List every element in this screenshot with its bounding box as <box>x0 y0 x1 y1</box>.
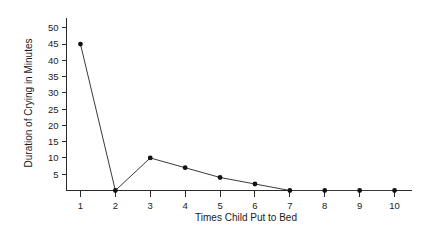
x-tick-label: 1 <box>78 200 83 211</box>
data-point <box>218 175 223 180</box>
data-point <box>322 188 327 193</box>
y-tick-label: 10 <box>48 152 59 163</box>
y-tick-label: 45 <box>48 38 59 49</box>
data-point <box>183 165 188 170</box>
chart-figure: 5101520253035404550 12345678910 Duration… <box>0 0 430 235</box>
y-tick-label: 30 <box>48 87 59 98</box>
x-tick-label: 9 <box>357 200 362 211</box>
data-point <box>78 42 83 47</box>
y-tick-label: 20 <box>48 120 59 131</box>
x-tick-label: 4 <box>183 200 188 211</box>
data-point <box>113 188 118 193</box>
x-tick-label: 2 <box>113 200 118 211</box>
x-tick-label: 10 <box>389 200 400 211</box>
data-series-points <box>78 42 397 193</box>
y-axis-tick-labels: 5101520253035404550 <box>48 22 59 179</box>
x-tick-label: 7 <box>287 200 292 211</box>
y-tick-label: 40 <box>48 55 59 66</box>
y-tick-label: 50 <box>48 22 59 33</box>
x-tick-label: 3 <box>148 200 153 211</box>
y-tick-label: 5 <box>53 169 58 180</box>
data-point <box>357 188 362 193</box>
x-tick-label: 6 <box>252 200 257 211</box>
y-tick-label: 35 <box>48 71 59 82</box>
x-axis-title: Times Child Put to Bed <box>195 212 297 223</box>
data-point <box>253 182 258 187</box>
y-tick-label: 25 <box>48 104 59 115</box>
data-point <box>392 188 397 193</box>
data-point <box>148 156 153 161</box>
x-axis-tick-labels: 12345678910 <box>78 200 400 211</box>
x-tick-label: 5 <box>217 200 222 211</box>
y-axis-title: Duration of Crying in Minutes <box>23 39 34 168</box>
x-tick-label: 8 <box>322 200 327 211</box>
data-series-line <box>80 44 394 190</box>
y-axis-tick-marks <box>62 28 67 174</box>
data-point <box>287 188 292 193</box>
y-tick-label: 15 <box>48 136 59 147</box>
x-axis-tick-marks <box>80 191 394 197</box>
line-chart-plot: 5101520253035404550 12345678910 Duration… <box>0 0 430 235</box>
